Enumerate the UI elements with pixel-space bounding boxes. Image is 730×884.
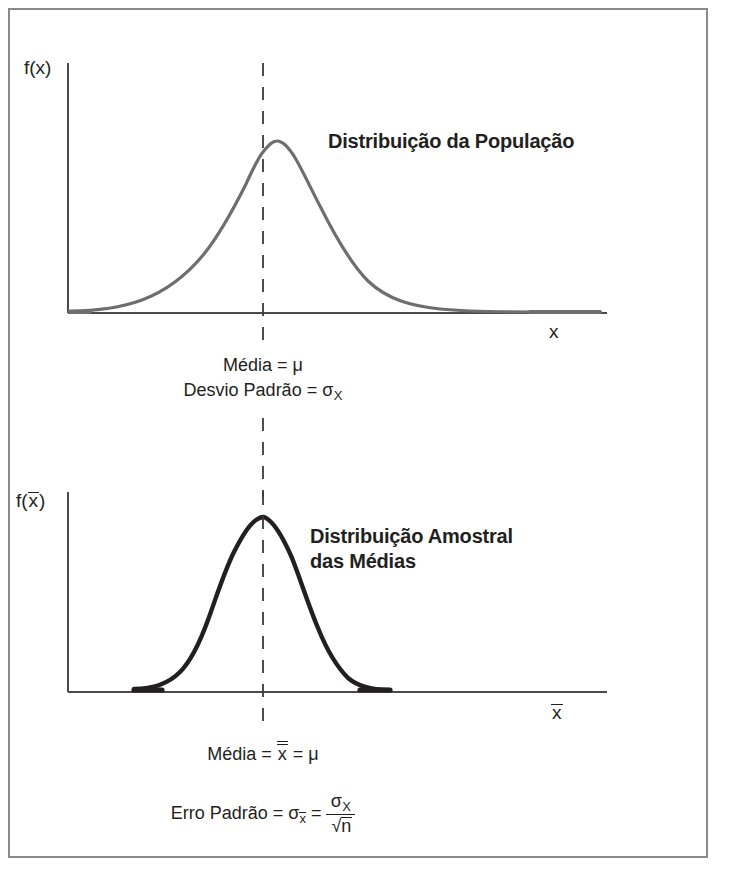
- sampling-mean-formula: Média=x=μ: [63, 740, 463, 765]
- sampling-chart-title-line2: das Médias: [310, 549, 513, 574]
- sampling-mean-block: Média=x=μ: [63, 740, 463, 765]
- sampling-x-axis-label: x: [551, 699, 563, 723]
- population-y-axis-label: f(x): [24, 58, 51, 78]
- standard-error-fraction: σX√n: [326, 792, 355, 835]
- population-x-axis-label: x: [549, 322, 559, 342]
- population-standard-deviation-formula: Desvio Padrão=σX: [63, 380, 463, 403]
- figure-container: f(x) x Distribuição da População Média=μ…: [0, 0, 730, 884]
- sampling-chart-title-line1: Distribuição Amostral: [310, 524, 513, 549]
- population-chart-title: Distribuição da População: [328, 129, 574, 154]
- population-mean-formula: Média=μ: [63, 355, 463, 376]
- standard-error-denominator: √n: [326, 815, 355, 835]
- population-parameters-block: Média=μ Desvio Padrão=σX: [63, 355, 463, 403]
- sampling-standard-error-block: Erro Padrão=σx=σX√n: [63, 793, 463, 836]
- sampling-chart-title: Distribuição Amostral das Médias: [310, 524, 513, 574]
- sampling-y-axis-label: f(x): [16, 487, 45, 511]
- standard-error-numerator: σX: [326, 792, 355, 815]
- sampling-standard-error-formula: Erro Padrão=σx=σX√n: [63, 793, 463, 836]
